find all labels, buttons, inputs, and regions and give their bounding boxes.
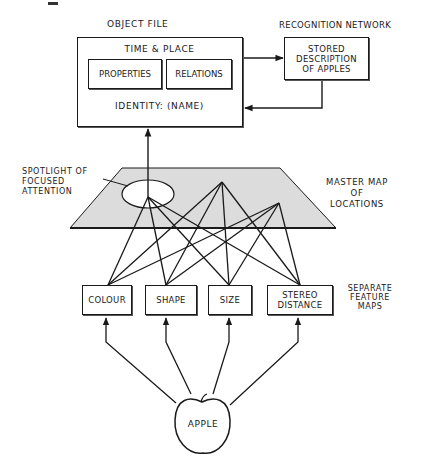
feature-label-line-3: MAPS	[340, 302, 400, 311]
stored-description-box: STORED DESCRIPTION OF APPLES	[284, 37, 369, 80]
stereo-line-1: STEREO	[282, 290, 318, 300]
feature-label-line-1: SEPARATE	[340, 284, 400, 293]
time-place-label: TIME & PLACE	[78, 44, 241, 55]
feature-map-size: SIZE	[208, 285, 252, 315]
master-map-plane	[70, 168, 336, 228]
stored-line-2: DESCRIPTION	[296, 54, 357, 64]
feature-integration-diagram: OBJECT FILE TIME & PLACE PROPERTIES RELA…	[0, 0, 445, 469]
master-map-label: MASTER MAP OF LOCATIONS	[312, 177, 402, 210]
recognition-to-object-file-arrow	[245, 80, 322, 108]
recognition-network-title: RECOGNITION NETWORK	[279, 20, 391, 31]
spotlight-line-3: ATTENTION	[22, 187, 88, 197]
master-map-line-2: OF	[312, 188, 402, 199]
feature-label-line-2: FEATURE	[340, 293, 400, 302]
stored-line-1: STORED	[308, 44, 345, 54]
stereo-line-2: DISTANCE	[278, 300, 323, 310]
object-file-box: TIME & PLACE PROPERTIES RELATIONS IDENTI…	[77, 37, 243, 127]
master-map-line-3: LOCATIONS	[312, 199, 402, 210]
master-map-line-1: MASTER MAP	[312, 177, 402, 188]
feature-map-stereo-distance: STEREO DISTANCE	[267, 285, 333, 315]
apple-label: APPLE	[175, 419, 231, 430]
feature-map-colour: COLOUR	[82, 285, 132, 315]
spotlight-label: SPOTLIGHT OF FOCUSED ATTENTION	[22, 167, 88, 197]
separate-feature-maps-label: SEPARATE FEATURE MAPS	[340, 284, 400, 311]
spotlight-line-1: SPOTLIGHT OF	[22, 167, 88, 177]
identity-label: IDENTITY: (NAME)	[78, 101, 241, 112]
apple-to-features-arrows	[106, 318, 298, 405]
object-file-title: OBJECT FILE	[107, 19, 168, 30]
feature-map-shape: SHAPE	[145, 285, 197, 315]
relations-box: RELATIONS	[166, 59, 232, 89]
stored-line-3: OF APPLES	[302, 64, 351, 74]
properties-box: PROPERTIES	[88, 59, 162, 89]
spotlight-line-2: FOCUSED	[22, 177, 88, 187]
